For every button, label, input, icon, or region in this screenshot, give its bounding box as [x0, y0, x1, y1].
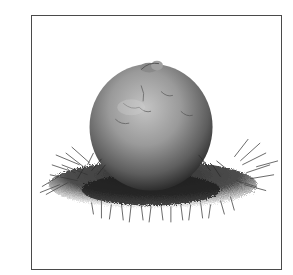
image-frame — [31, 15, 282, 270]
cropped-caption-text — [0, 0, 293, 3]
bulb-body — [90, 64, 213, 191]
onion-bulb-photo — [32, 16, 281, 269]
